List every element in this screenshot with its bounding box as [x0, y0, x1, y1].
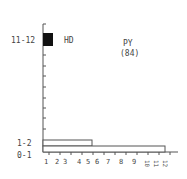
chart: 11-12 1-2 0-1 HD PY (84) 1 2 3 4 5 6 7 8…: [0, 0, 187, 179]
bar-1-2: [43, 140, 92, 146]
x-tick-1: 1: [44, 158, 48, 166]
category-label-1-2: 1-2: [17, 139, 32, 148]
x-tick-7: 7: [106, 158, 110, 166]
x-tick-2: 2: [55, 158, 59, 166]
bar-0-1: [43, 146, 165, 152]
x-tick-12: 12: [162, 160, 169, 168]
x-tick-10: 10: [144, 160, 151, 168]
annotation-hd: HD: [64, 36, 74, 45]
x-tick-6: 6: [95, 158, 99, 166]
x-tick-labels: 1 2 3 4 5 6 7 8 9 10 11 12: [44, 158, 169, 168]
category-label-0-1: 0-1: [17, 151, 32, 160]
annotation-py: PY: [123, 39, 133, 48]
x-tick-8: 8: [119, 158, 123, 166]
x-tick-5: 5: [86, 158, 90, 166]
bar-11-12-hd: [43, 33, 53, 46]
x-tick-3: 3: [63, 158, 67, 166]
x-tick-4: 4: [77, 158, 81, 166]
annotation-py-count: (84): [120, 49, 139, 58]
x-tick-9: 9: [132, 158, 136, 166]
chart-svg: 11-12 1-2 0-1 HD PY (84) 1 2 3 4 5 6 7 8…: [0, 0, 187, 179]
category-label-11-12: 11-12: [11, 36, 35, 45]
x-tick-11: 11: [153, 160, 160, 168]
